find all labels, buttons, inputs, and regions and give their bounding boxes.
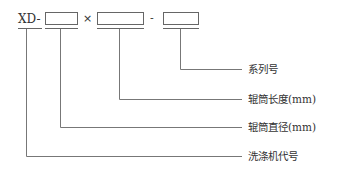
label-machine-code: 洗涤机代号 (248, 150, 298, 163)
leader-machine (27, 29, 243, 157)
label-roller-length: 辊筒长度(mm) (248, 93, 316, 106)
leader-diameter (61, 29, 243, 128)
label-roller-diameter: 辊筒直径(mm) (248, 121, 316, 134)
code-prefix: XD- (18, 13, 40, 26)
box-length (98, 13, 144, 25)
times-sign: × (83, 12, 92, 25)
box-series (164, 13, 199, 25)
dash-sign: - (150, 12, 154, 25)
diagram-lines (0, 0, 337, 170)
leader-series (181, 29, 243, 70)
box-diameter (46, 13, 78, 25)
label-series: 系列号 (248, 63, 278, 76)
